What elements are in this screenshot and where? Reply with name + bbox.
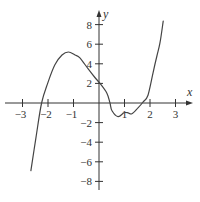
y-tick-label: 8 [87,19,93,31]
x-tick-label: −3 [15,108,27,120]
x-tick-label: 3 [173,108,179,120]
y-axis-label: y [102,7,109,21]
function-graph: −3−2−1123 8642−2−4−6−8 x y [0,0,200,202]
y-tick-label: −4 [80,136,92,148]
x-axis-arrow-icon [186,101,193,106]
x-tick-label: 2 [147,108,153,120]
y-tick-label: 6 [87,38,93,50]
y-tick-label: −6 [80,156,92,168]
x-tick-label: −2 [40,108,52,120]
y-tick-label: −8 [80,175,92,187]
y-axis-arrow-icon [97,10,102,17]
x-axis-label: x [186,85,193,99]
y-tick-label: −2 [80,117,92,129]
x-tick-label: −1 [66,108,78,120]
function-curve [31,21,163,171]
y-axis [97,10,102,190]
y-tick-label: 2 [87,77,93,89]
